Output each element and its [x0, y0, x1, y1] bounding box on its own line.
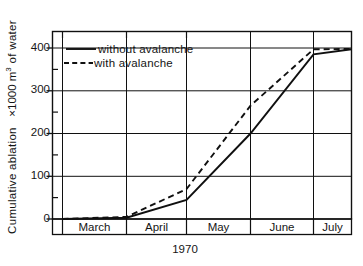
x-axis-month-july: July: [313, 221, 352, 234]
x-axis-month-march: March: [62, 221, 127, 234]
x-axis-month-may: May: [186, 221, 251, 234]
top-axis-ticks: [63, 32, 187, 39]
x-axis-month-april: April: [126, 221, 187, 234]
legend-label-with-avalanche: with avalanche: [94, 57, 173, 69]
y-axis-major-ticks: [47, 48, 53, 219]
chart-figure: Cumulative ablation ×1000 m3 of water 40…: [0, 0, 363, 266]
series-line-without-avalanche: [63, 49, 352, 219]
legend-label-without-avalanche: without avalanche: [98, 43, 193, 55]
x-axis-title: 1970: [145, 243, 225, 255]
x-axis-month-june: June: [250, 221, 314, 234]
